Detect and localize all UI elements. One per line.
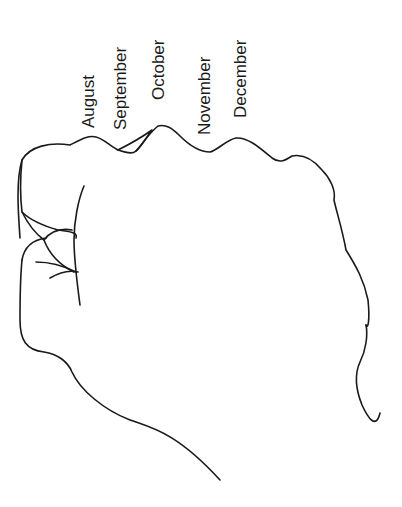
label-november: November bbox=[196, 57, 213, 135]
knuckle-contour bbox=[18, 125, 369, 326]
finger-crease-4 bbox=[22, 238, 46, 260]
finger-crease-1 bbox=[74, 186, 84, 305]
label-december: December bbox=[232, 40, 249, 118]
label-september: September bbox=[112, 47, 129, 130]
thumb-contour bbox=[21, 160, 77, 238]
label-october: October bbox=[150, 40, 167, 100]
thumb-nail bbox=[44, 240, 74, 272]
knuckle-inner-fold bbox=[118, 130, 152, 151]
label-august: August bbox=[80, 75, 97, 128]
wrist-right-edge bbox=[356, 325, 380, 421]
fist-diagram: August September October November Decemb… bbox=[0, 0, 402, 507]
wrist-left-edge bbox=[20, 260, 220, 480]
